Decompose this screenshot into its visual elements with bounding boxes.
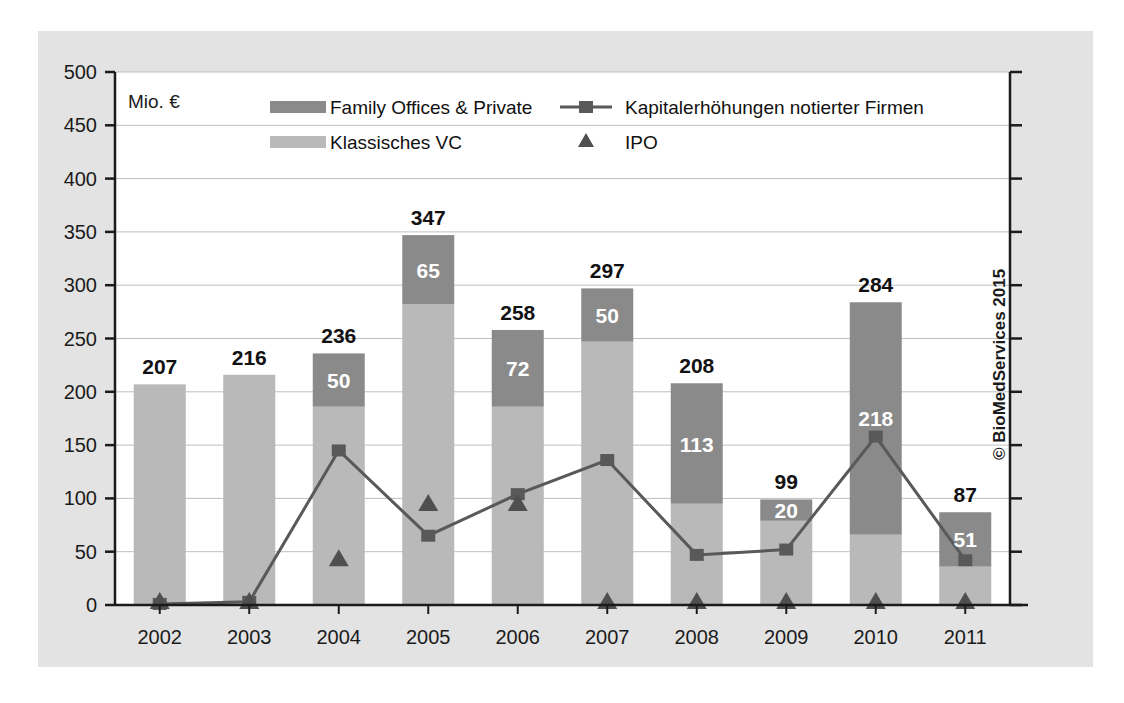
y-axis-tick-label: 350 (64, 221, 97, 243)
bar-segment-klassisches-vc (581, 342, 633, 605)
chart-canvas: 050100150200250300350400450500 200220032… (0, 0, 1124, 703)
bar-segment-klassisches-vc (402, 304, 454, 605)
x-axis-tick-label: 2005 (406, 626, 451, 648)
bar-segment-label: 50 (327, 369, 350, 392)
legend-label: Kapitalerhöhungen notierter Firmen (625, 97, 924, 118)
bar-total-label: 347 (411, 206, 446, 229)
y-axis-tick-label: 400 (64, 168, 97, 190)
bar-total-label: 284 (858, 273, 893, 296)
legend-label: Family Offices & Private (330, 97, 532, 118)
line-marker-square (958, 554, 972, 566)
bar-total-label: 99 (775, 470, 798, 493)
x-axis-tick-label: 2010 (854, 626, 899, 648)
y-axis-tick-label: 100 (64, 487, 97, 509)
line-marker-square (332, 444, 346, 456)
bar-segment-label: 65 (417, 259, 441, 282)
bar-segment-label: 218 (858, 407, 893, 430)
x-axis-tick-label: 2004 (317, 626, 362, 648)
y-axis-tick-label: 150 (64, 434, 97, 456)
x-axis-tick-label: 2003 (227, 626, 272, 648)
y-axis-tick-label: 450 (64, 114, 97, 136)
bar-segment-label: 50 (596, 304, 619, 327)
bar-total-label: 87 (954, 483, 977, 506)
bar-segment-label: 20 (775, 499, 798, 522)
chart-svg: 050100150200250300350400450500 200220032… (0, 0, 1124, 703)
x-axis-tick-label: 2002 (138, 626, 183, 648)
legend-label: IPO (625, 132, 658, 153)
bar-total-label: 207 (142, 355, 177, 378)
y-axis-tick-label: 200 (64, 381, 97, 403)
legend-swatch (270, 101, 326, 113)
x-axis-tick-label: 2008 (675, 626, 720, 648)
bar-segment-label: 113 (680, 433, 714, 456)
copyright-label: © BioMedServices 2015 (990, 269, 1009, 460)
bar-segment-label: 51 (954, 528, 978, 551)
line-marker-square (690, 549, 704, 561)
bar-segment-klassisches-vc (313, 407, 365, 605)
bar-total-label: 216 (232, 346, 267, 369)
x-axis-tick-label: 2006 (496, 626, 541, 648)
x-axis-ticks: 2002200320042005200620072008200920102011 (138, 605, 987, 648)
bar-total-label: 297 (590, 259, 625, 282)
x-axis-tick-label: 2007 (585, 626, 630, 648)
bar-segment-label: 72 (506, 357, 529, 380)
line-marker-square (421, 530, 435, 542)
bar-total-label: 236 (321, 324, 356, 347)
line-marker-square (779, 544, 793, 556)
y-axis-tick-label: 500 (64, 61, 97, 83)
y-axis-tick-label: 250 (64, 328, 97, 350)
bar-total-label: 208 (679, 354, 714, 377)
bar-total-label: 258 (500, 301, 535, 324)
legend-swatch (270, 136, 326, 148)
line-marker-square (600, 454, 614, 466)
chart-figure: 050100150200250300350400450500 200220032… (0, 0, 1124, 703)
legend-square-marker (579, 101, 593, 113)
y-axis-tick-label: 300 (64, 274, 97, 296)
x-axis-tick-label: 2009 (764, 626, 809, 648)
y-axis-tick-label: 50 (75, 541, 97, 563)
bar-segment-klassisches-vc (134, 384, 186, 605)
line-marker-square (869, 431, 883, 443)
y-axis-tick-label: 0 (86, 594, 97, 616)
legend-label: Klassisches VC (330, 132, 462, 153)
y-axis-unit-label: Mio. € (128, 91, 180, 112)
x-axis-tick-label: 2011 (944, 626, 987, 648)
